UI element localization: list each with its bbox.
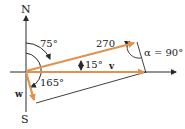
label-north: N — [21, 3, 31, 16]
label-south: S — [21, 113, 29, 126]
vector-diagram: N S 75° 270 α = 90° 15° v 165° w — [0, 0, 185, 129]
label-v: v — [108, 61, 115, 71]
label-165: 165° — [40, 77, 64, 88]
label-270: 270 — [96, 38, 115, 49]
label-alpha: α = 90° — [144, 47, 183, 58]
label-15: 15° — [85, 59, 103, 70]
label-w: w — [14, 89, 23, 99]
label-75: 75° — [40, 38, 58, 49]
